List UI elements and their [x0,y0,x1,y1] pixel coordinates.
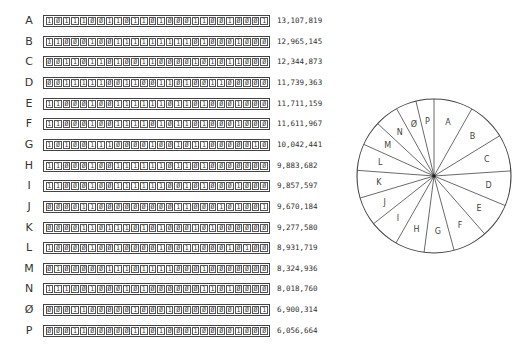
bit-cell: Ø [166,141,174,149]
bit-cell: Ø [192,285,200,293]
bit-cell: Ø [88,306,96,314]
bit-cell: Ø [174,327,182,335]
bit-cell: Ø [114,306,122,314]
bit-cell: 1 [235,100,243,108]
bit-cell: Ø [54,224,62,232]
bit-cell: 1 [123,224,131,232]
bit-strip: 11ØØØ1ØØ111111Ø11Ø1ØØØØØØØ [43,160,270,172]
bit-cell: Ø [260,327,268,335]
bit-cell: 1 [192,224,200,232]
bit-strip: ØØØØ11ØØØØØØØØØ11ØØØ1Ø1ØØ1 [43,201,270,213]
bit-cell: Ø [200,203,208,211]
bit-cell: Ø [149,17,157,25]
bit-cell: Ø [209,327,217,335]
bit-cell: Ø [97,100,105,108]
pie-slice-label: A [445,118,451,127]
bit-cell: 1 [200,100,208,108]
bit-cell: Ø [97,306,105,314]
bit-cell: Ø [97,162,105,170]
bit-cell: Ø [217,327,225,335]
bit-cell: 1 [200,17,208,25]
bit-cell: Ø [209,100,217,108]
bit-cell: Ø [46,79,54,87]
bit-cell: Ø [149,244,157,252]
bit-cell: Ø [217,265,225,273]
bit-cell: Ø [183,58,191,66]
bit-cell: 1 [217,203,225,211]
bit-cell: Ø [252,58,260,66]
row-label: N [23,282,35,296]
pie-slice-label: P [425,117,430,126]
bit-strip: 11ØØØ1ØØ111111111Ø1ØØØ1ØØØ [43,36,270,48]
pie-slice-label: F [458,221,463,230]
bit-cell: 1 [140,17,148,25]
bit-cell: Ø [252,285,260,293]
bit-strip: ØØØ11ØØØØØ1ØØØ1ØØØØØØØ1ØØ1 [43,304,270,316]
bit-cell: Ø [217,38,225,46]
bit-cell: Ø [192,265,200,273]
bit-cell: Ø [80,265,88,273]
bit-cell: 1 [80,327,88,335]
bit-cell: Ø [46,327,54,335]
bit-cell: Ø [157,306,165,314]
bit-cell: Ø [252,327,260,335]
bit-cell: Ø [235,162,243,170]
bit-cell: Ø [97,17,105,25]
bit-cell: Ø [97,265,105,273]
bit-cell: Ø [226,224,234,232]
bit-cell: Ø [200,224,208,232]
bit-cell: 1 [97,58,105,66]
bit-cell: Ø [217,141,225,149]
bit-cell: Ø [71,162,79,170]
pie-slice-label: L [378,158,383,167]
bit-cell: Ø [209,306,217,314]
bit-cell: Ø [106,244,114,252]
bit-cell: Ø [131,203,139,211]
bit-cell: Ø [252,162,260,170]
row-label: I [23,179,35,193]
bit-cell: Ø [209,265,217,273]
bit-cell: 1 [71,58,79,66]
bit-cell: 1 [114,38,122,46]
bit-cell: 1 [174,38,182,46]
bit-cell: Ø [131,244,139,252]
bit-cell: Ø [252,182,260,190]
bit-cell: 1 [183,120,191,128]
bit-cell: Ø [80,285,88,293]
bit-cell: Ø [183,306,191,314]
bit-cell: Ø [243,17,251,25]
bit-cell: Ø [63,265,71,273]
bit-cell: 1 [140,224,148,232]
bit-cell: Ø [63,306,71,314]
bit-cell: 1 [157,327,165,335]
bit-cell: Ø [226,162,234,170]
bit-cell: Ø [252,203,260,211]
bit-cell: Ø [200,244,208,252]
row-value: 8,324,936 [277,263,318,275]
row-value: 9,670,184 [277,201,318,213]
row-value: 8,018,760 [277,283,318,295]
bit-cell: 1 [200,38,208,46]
bit-cell: 1 [54,162,62,170]
bit-cell: Ø [174,182,182,190]
bit-cell: Ø [260,58,268,66]
pie-slice-label: C [484,155,490,164]
bit-cell: 1 [106,141,114,149]
bit-cell: 1 [131,17,139,25]
bit-cell: 1 [157,224,165,232]
bit-cell: 1 [88,141,96,149]
bit-cell: Ø [54,79,62,87]
bit-cell: Ø [97,203,105,211]
bit-cell: 1 [54,100,62,108]
bit-cell: Ø [192,100,200,108]
bit-cell: 1 [149,100,157,108]
bit-cell: Ø [226,120,234,128]
bit-cell: 1 [209,79,217,87]
row-value: 10,042,441 [277,139,322,151]
bit-cell: Ø [140,203,148,211]
bit-cell: Ø [235,265,243,273]
bit-cell: 1 [157,100,165,108]
bit-cell: 1 [226,58,234,66]
bit-cell: Ø [166,203,174,211]
bit-cell: Ø [149,203,157,211]
